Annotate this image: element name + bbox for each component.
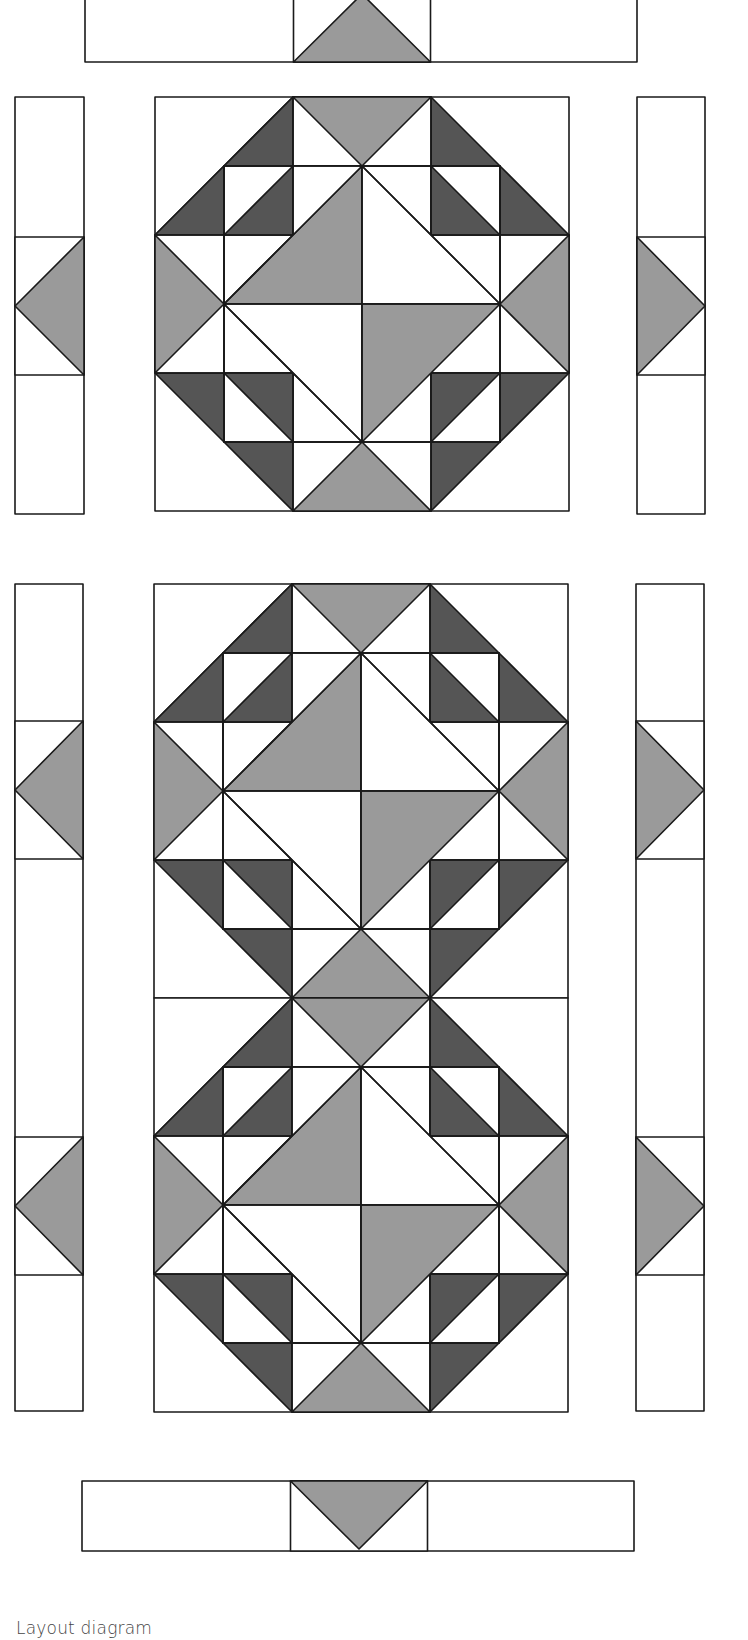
right-strip-1	[637, 97, 705, 514]
block-2a	[154, 584, 568, 998]
quilt-layout-diagram	[0, 0, 748, 1640]
left-strip-2-frame	[15, 584, 83, 1411]
left-strip-1	[15, 97, 84, 514]
caption: Layout diagram	[16, 1618, 152, 1638]
top-border	[85, 0, 637, 62]
right-strip-2	[636, 584, 704, 1411]
block-2b	[154, 998, 568, 1412]
left-strip-2	[15, 584, 83, 1411]
right-strip-2-frame	[636, 584, 704, 1411]
bottom-border	[82, 1481, 634, 1551]
block-1	[155, 97, 569, 511]
